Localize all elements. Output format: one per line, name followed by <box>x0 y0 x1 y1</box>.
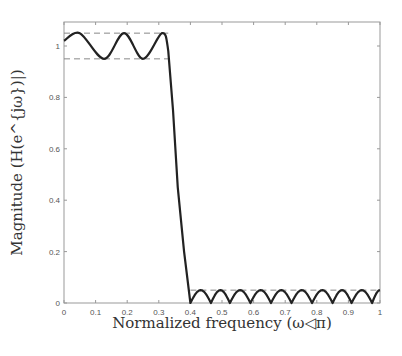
y-tick-label: 1 <box>56 42 61 51</box>
y-tick-label: 0 <box>56 299 61 308</box>
x-tick-label: 0.9 <box>343 308 355 317</box>
plot-area <box>64 22 380 303</box>
x-tick-label: 0.1 <box>90 308 102 317</box>
y-tick-label: 0.2 <box>49 248 61 257</box>
x-tick-label: 1 <box>378 308 383 317</box>
magnitude-response-chart: 00.10.20.30.40.50.60.70.80.9100.20.40.60… <box>0 0 402 356</box>
y-tick-label: 0.6 <box>49 145 61 154</box>
y-tick-label: 0.4 <box>49 196 61 205</box>
x-tick-label: 0 <box>62 308 67 317</box>
y-tick-label: 0.8 <box>49 93 61 102</box>
y-axis-label: Magnitude (H(e^{jω})|) <box>8 69 26 255</box>
x-axis-label: Normalized frequency (ω◁π) <box>112 314 332 332</box>
